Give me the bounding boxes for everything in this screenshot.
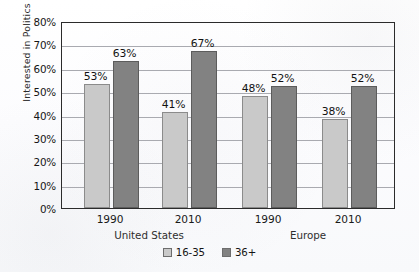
bar-united-states-1990-36+ (113, 61, 139, 208)
y-tick-10: 10% (24, 180, 56, 192)
bar-europe-2010-36+ (351, 86, 377, 208)
bar-value-label: 63% (113, 47, 136, 60)
bar-europe-2010-16-35 (322, 119, 348, 208)
y-tick-30: 30% (24, 133, 56, 145)
bar-united-states-1990-16-35 (84, 84, 110, 208)
legend-label: 36+ (235, 247, 256, 258)
bar-value-label: 52% (271, 72, 294, 85)
bar-united-states-2010-36+ (191, 51, 217, 208)
legend-swatch-icon (163, 248, 172, 257)
y-tick-0: 0% (24, 203, 56, 215)
group-label-europe: Europe (290, 229, 326, 241)
bar-value-label: 52% (351, 72, 374, 85)
legend-item-36+[interactable]: 36+ (222, 247, 256, 258)
bar-europe-1990-36+ (271, 86, 297, 208)
y-tick-50: 50% (24, 86, 56, 98)
legend: 16-3536+ (0, 247, 419, 258)
bar-value-label: 67% (191, 37, 214, 50)
y-tick-70: 70% (24, 39, 56, 51)
x-tick-europe-2010: 2010 (335, 213, 362, 225)
x-tick-united-states-1990: 1990 (97, 213, 124, 225)
x-tick-europe-1990: 1990 (255, 213, 282, 225)
y-tick-60: 60% (24, 63, 56, 75)
bar-united-states-2010-16-35 (162, 112, 188, 208)
legend-label: 16-35 (176, 247, 205, 258)
legend-swatch-icon (222, 248, 231, 257)
bar-value-label: 38% (322, 105, 345, 118)
bar-value-label: 41% (162, 98, 185, 111)
legend-item-16-35[interactable]: 16-35 (163, 247, 205, 258)
y-tick-20: 20% (24, 156, 56, 168)
y-tick-80: 80% (24, 16, 56, 28)
x-tick-united-states-2010: 2010 (175, 213, 202, 225)
grouped-bar-chart: Interested in Politics 0%10%20%30%40%50%… (0, 0, 419, 272)
y-axis-tick-labels: 0%10%20%30%40%50%60%70%80% (22, 0, 56, 272)
bar-europe-1990-16-35 (242, 96, 268, 208)
y-tick-40: 40% (24, 110, 56, 122)
group-label-united-states: United States (114, 229, 184, 241)
bar-value-label: 53% (84, 70, 107, 83)
gridline-70 (62, 46, 394, 47)
bar-value-label: 48% (242, 82, 265, 95)
